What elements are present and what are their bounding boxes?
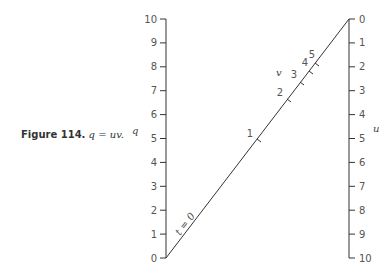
- v-axis-name: v: [276, 67, 282, 78]
- q-tick-5: 5: [151, 133, 157, 144]
- q-tick-1: 1: [151, 229, 157, 240]
- q-tick-6: 6: [151, 109, 157, 120]
- q-tick-8: 8: [151, 61, 157, 72]
- v-tick-2: 2: [277, 87, 283, 98]
- u-tick-1: 1: [359, 37, 365, 48]
- u-tick-9: 9: [359, 229, 365, 240]
- v-axis-labels: 1 2 3 4 5: [247, 49, 315, 139]
- v-tick-1: 1: [247, 128, 253, 139]
- u-tick-7: 7: [359, 181, 365, 192]
- u-tick-5: 5: [359, 133, 365, 144]
- q-tick-7: 7: [151, 85, 157, 96]
- nomogram: 0 1 2 3 4 5 6 7 8 9 10 q 0 1 2 3 4 5 6 7…: [0, 0, 392, 271]
- u-tick-2: 2: [359, 61, 365, 72]
- v-axis-ticks: [257, 63, 319, 142]
- u-tick-8: 8: [359, 205, 365, 216]
- q-axis: [160, 19, 166, 258]
- q-tick-4: 4: [151, 157, 157, 168]
- u-tick-0: 0: [359, 14, 365, 25]
- q-axis-name: q: [132, 125, 138, 136]
- q-tick-3: 3: [151, 181, 157, 192]
- v-axis: [166, 19, 349, 258]
- v-tick-3: 3: [291, 69, 297, 80]
- q-tick-2: 2: [151, 205, 157, 216]
- q-tick-0: 0: [151, 253, 157, 264]
- q-axis-labels: 0 1 2 3 4 5 6 7 8 9 10: [144, 14, 157, 264]
- u-tick-6: 6: [359, 157, 365, 168]
- u-tick-10: 10: [359, 253, 372, 264]
- u-tick-3: 3: [359, 85, 365, 96]
- u-axis: [349, 19, 355, 258]
- v-tick-5: 5: [309, 49, 315, 60]
- v-tick-4: 4: [302, 57, 308, 68]
- u-axis-name: u: [373, 123, 379, 134]
- u-tick-4: 4: [359, 109, 365, 120]
- u-axis-labels: 0 1 2 3 4 5 6 7 8 9 10: [359, 14, 372, 264]
- q-tick-9: 9: [151, 37, 157, 48]
- q-tick-10: 10: [144, 14, 157, 25]
